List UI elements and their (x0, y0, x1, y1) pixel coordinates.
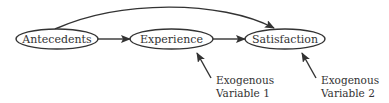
node-antecedents: Antecedents (16, 29, 98, 49)
node-satisfaction: Satisfaction (245, 29, 325, 49)
node-experience: Experience (130, 29, 213, 49)
arrow-exogenous-1 (197, 53, 211, 78)
node-label: Antecedents (21, 33, 92, 46)
exogenous-1-line1: Exogenous (216, 74, 274, 86)
curved-arrow-antecedents-satisfaction (55, 7, 274, 29)
exogenous-1-line2: Variable 1 (215, 87, 270, 99)
exogenous-2-line1: Exogenous (321, 74, 379, 86)
arrow-exogenous-2 (302, 53, 316, 78)
node-label: Satisfaction (252, 33, 318, 46)
exogenous-2-line2: Variable 2 (320, 87, 375, 99)
path-diagram: Antecedents Experience Satisfaction Exog… (0, 0, 389, 103)
node-label: Experience (140, 33, 203, 46)
